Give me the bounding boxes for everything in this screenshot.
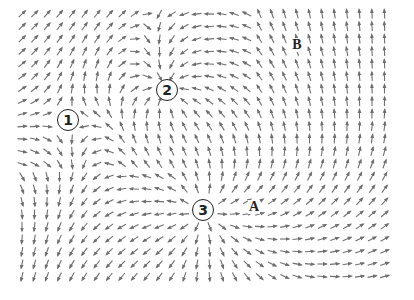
field-arrow (255, 238, 264, 240)
field-arrow (30, 150, 38, 153)
field-arrow (58, 235, 62, 243)
field-arrow (231, 86, 238, 91)
field-arrow (155, 188, 164, 191)
field-arrow (180, 214, 189, 215)
field-arrow (357, 185, 362, 192)
field-arrow (44, 60, 49, 67)
field-arrow (370, 160, 373, 168)
field-arrow (70, 197, 74, 205)
field-arrow (245, 110, 250, 118)
field-arrow (106, 212, 114, 217)
field-arrow (158, 147, 162, 155)
field-arrow (43, 149, 50, 154)
field-arrow (193, 88, 202, 91)
field-arrow (131, 261, 137, 267)
field-arrow (18, 126, 27, 127)
field-arrow (69, 23, 74, 30)
field-arrow (58, 210, 61, 219)
field-arrow (143, 188, 152, 190)
field-arrow (321, 85, 323, 94)
field-arrow (220, 123, 225, 131)
field-arrow (144, 61, 151, 67)
field-arrow (144, 35, 149, 42)
field-arrow (180, 75, 188, 78)
field-arrow (70, 185, 73, 193)
field-arrow (144, 24, 151, 30)
field-arrow (132, 98, 136, 106)
field-arrow (268, 213, 276, 216)
field-arrow (105, 187, 113, 190)
field-arrow (268, 250, 277, 253)
field-arrow (259, 135, 261, 144)
field-arrow (320, 173, 324, 181)
field-arrow (131, 237, 139, 242)
field-arrow (107, 60, 111, 68)
field-arrow (230, 214, 239, 215)
field-arrow (258, 10, 262, 18)
field-arrow (218, 214, 227, 215)
field-arrow (80, 126, 89, 128)
field-arrow (143, 88, 152, 91)
field-arrow (94, 236, 100, 242)
field-arrow (234, 160, 235, 169)
field-arrow (221, 272, 224, 281)
field-arrow (155, 225, 163, 228)
field-arrow (143, 213, 152, 215)
field-arrow (218, 63, 227, 65)
field-arrow (19, 23, 26, 29)
field-arrow (105, 150, 114, 153)
field-arrow (221, 260, 224, 268)
critical-point-2: 2 (156, 79, 178, 101)
field-arrow (196, 235, 199, 244)
field-arrow (347, 135, 348, 144)
field-arrow (181, 62, 189, 67)
field-arrow (306, 199, 313, 205)
field-arrow (44, 73, 50, 80)
field-arrow (47, 185, 48, 194)
field-arrow (144, 160, 149, 167)
field-arrow (318, 225, 326, 229)
field-arrow (95, 97, 99, 105)
field-arrow (270, 35, 274, 43)
field-arrow (208, 222, 211, 230)
field-arrow (31, 36, 37, 43)
field-arrow (280, 275, 288, 279)
field-arrow (321, 110, 322, 119)
field-arrow (58, 85, 62, 93)
field-arrow (181, 99, 188, 105)
field-arrow (120, 85, 124, 93)
field-arrow (57, 98, 62, 106)
field-arrow (246, 135, 248, 144)
field-arrow (57, 135, 62, 142)
field-arrow (82, 185, 87, 192)
field-arrow (46, 210, 47, 219)
field-arrow (18, 113, 27, 115)
field-arrow (330, 264, 339, 265)
field-arrow (157, 160, 162, 168)
field-arrow (305, 238, 314, 240)
field-arrow (33, 272, 36, 281)
field-arrow (256, 261, 263, 266)
field-arrow (231, 236, 238, 242)
field-arrow (181, 24, 189, 28)
field-arrow (232, 248, 238, 255)
field-arrow (169, 260, 174, 267)
field-arrow (119, 249, 126, 255)
field-arrow (355, 237, 363, 241)
field-arrow (359, 147, 361, 156)
field-arrow (82, 198, 88, 205)
field-arrow (359, 47, 360, 56)
field-arrow (134, 122, 135, 131)
field-arrow (143, 13, 152, 15)
field-arrow (306, 212, 314, 217)
field-arrow (193, 13, 202, 14)
field-arrow (359, 85, 360, 94)
field-arrow (181, 199, 189, 203)
field-arrow (31, 48, 37, 55)
field-arrow (94, 23, 99, 30)
field-arrow (57, 23, 63, 30)
field-arrow (305, 264, 314, 265)
field-arrow (143, 75, 152, 78)
field-arrow (280, 263, 289, 266)
field-arrow (334, 47, 336, 56)
